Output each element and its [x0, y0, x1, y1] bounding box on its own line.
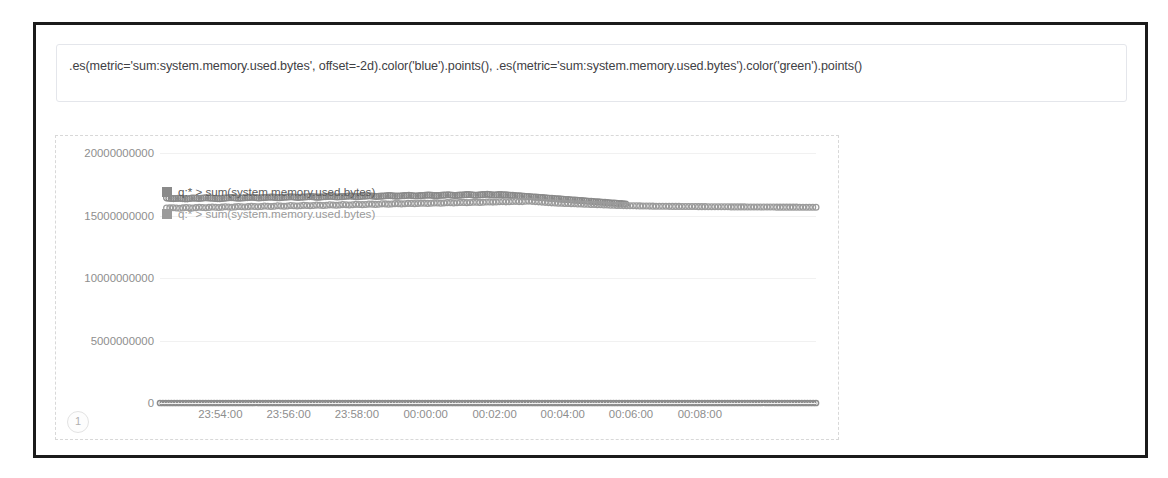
gridline — [160, 278, 816, 279]
x-axis-tick-label: 00:04:00 — [541, 408, 585, 420]
expression-text[interactable]: .es(metric='sum:system.memory.used.bytes… — [69, 58, 1120, 74]
chart-index-badge[interactable]: 1 — [67, 411, 89, 433]
x-axis-tick-label: 00:06:00 — [609, 408, 653, 420]
legend-item[interactable]: q:* > sum(system.memory.used.bytes) — [162, 205, 582, 222]
legend-item-label: q:* > sum(system.memory.used.bytes) — [178, 207, 375, 220]
legend-item[interactable]: q:* > sum(system.memory.used.bytes) — [162, 183, 582, 200]
gridline — [160, 341, 816, 342]
x-axis-tick-label: 23:54:00 — [198, 408, 242, 420]
x-axis-tick-label: 23:58:00 — [335, 408, 379, 420]
x-axis-tick-label: 00:08:00 — [678, 408, 722, 420]
app-frame: .es(metric='sum:system.memory.used.bytes… — [33, 22, 1148, 458]
y-axis-tick-label: 0 — [148, 397, 154, 409]
chart-panel[interactable]: 2000000000015000000000100000000005000000… — [55, 135, 839, 440]
chart-legend: q:* > sum(system.memory.used.bytes) q:* … — [162, 183, 582, 227]
y-axis-tick-label: 5000000000 — [91, 335, 154, 347]
screenshot-root: .es(metric='sum:system.memory.used.bytes… — [0, 0, 1168, 478]
x-axis-tick-label: 23:56:00 — [266, 408, 310, 420]
gridline — [160, 153, 816, 154]
legend-color-swatch — [162, 187, 172, 197]
legend-item-label: q:* > sum(system.memory.used.bytes) — [178, 185, 375, 198]
legend-color-swatch — [162, 209, 172, 219]
y-axis-tick-label: 15000000000 — [84, 210, 154, 222]
x-axis: 23:54:0023:56:0023:58:0000:00:0000:02:00… — [160, 408, 816, 428]
x-axis-tick-label: 00:00:00 — [404, 408, 448, 420]
y-axis-tick-label: 20000000000 — [84, 147, 154, 159]
y-axis-tick-label: 10000000000 — [84, 272, 154, 284]
gridline — [160, 403, 816, 404]
y-axis: 2000000000015000000000100000000005000000… — [56, 153, 154, 403]
timelion-expression-input[interactable]: .es(metric='sum:system.memory.used.bytes… — [56, 44, 1127, 102]
x-axis-tick-label: 00:02:00 — [472, 408, 516, 420]
